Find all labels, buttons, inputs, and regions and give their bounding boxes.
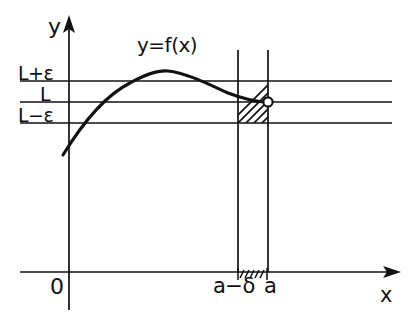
a-label: a [264,276,277,297]
x-axis-label: x [380,285,392,306]
open-point-marker [263,97,272,106]
delta-band-lines [238,50,268,272]
epsilon-band-lines [20,81,392,123]
y-axis [63,15,75,310]
l-plus-epsilon-label: L+ε [18,64,53,83]
origin-label: 0 [50,276,64,298]
a-minus-delta-label: a−δ [213,276,255,297]
function-curve-label: y=f(x) [137,35,197,55]
function-curve [63,71,266,155]
l-minus-epsilon-label: L−ε [18,106,53,125]
l-label: L [40,85,51,104]
limit-definition-figure: y x 0 L+ε L L−ε y=f(x) a−δ a [0,0,412,324]
x-axis [20,266,401,278]
y-axis-label: y [48,16,61,38]
